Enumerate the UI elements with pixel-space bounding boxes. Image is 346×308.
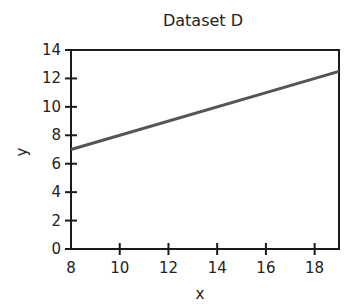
y-axis-label: y xyxy=(13,147,31,156)
y-tick-label: 4 xyxy=(51,183,61,201)
y-tick-label: 12 xyxy=(42,69,61,87)
data-line xyxy=(71,71,339,149)
plot-frame xyxy=(71,50,339,249)
y-tick-label: 14 xyxy=(42,41,61,59)
x-tick-label: 14 xyxy=(208,259,227,277)
x-tick-label: 8 xyxy=(66,259,76,277)
x-tick-label: 10 xyxy=(110,259,129,277)
y-tick-label: 2 xyxy=(51,212,61,230)
x-tick-label: 12 xyxy=(159,259,178,277)
x-tick-label: 18 xyxy=(305,259,324,277)
x-tick-label: 16 xyxy=(256,259,275,277)
y-tick-label: 0 xyxy=(51,240,61,258)
y-tick-label: 10 xyxy=(42,98,61,116)
y-tick-label: 6 xyxy=(51,155,61,173)
x-axis-label: x xyxy=(196,285,205,303)
plot-area: 0246810121481012141618xy xyxy=(0,0,346,308)
y-tick-label: 8 xyxy=(51,126,61,144)
